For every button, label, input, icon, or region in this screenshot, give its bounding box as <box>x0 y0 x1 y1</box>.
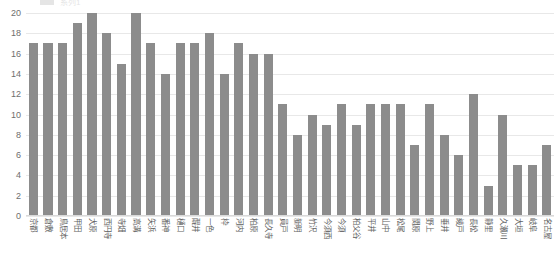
x-axis-tick-label: 久瀬川 <box>499 218 507 239</box>
bar-slot <box>334 13 349 216</box>
x-axis-slot: 久瀬川 <box>496 217 511 274</box>
bar-slot <box>173 13 188 216</box>
y-axis-tick-label: 4 <box>16 171 21 180</box>
x-axis-tick-label: 竹沢 <box>308 218 316 232</box>
y-axis-tick-label: 6 <box>16 151 21 160</box>
y-axis-tick-label: 12 <box>11 90 21 99</box>
bar-slot <box>437 13 452 216</box>
bar <box>220 74 229 216</box>
x-axis-tick-label: 樋口 <box>176 218 184 232</box>
x-axis-slot: 西円寺 <box>99 217 114 274</box>
bar-slot <box>41 13 56 216</box>
bar <box>322 125 331 216</box>
bar-slot <box>246 13 261 216</box>
x-axis-tick-label: 平井 <box>367 218 375 232</box>
x-axis-slot: 垂井 <box>437 217 452 274</box>
bar-slot <box>70 13 85 216</box>
x-axis-slot: 松尾 <box>393 217 408 274</box>
x-axis-tick-label: 醍井 <box>191 218 199 232</box>
x-axis-slot: 倉敷 <box>41 217 56 274</box>
bar-slot <box>275 13 290 216</box>
bar <box>381 104 390 216</box>
y-axis-tick-label: 18 <box>11 29 21 38</box>
x-axis-slot: 甲田 <box>70 217 85 274</box>
x-axis-baseline <box>26 215 554 216</box>
x-axis-slot: 長松 <box>466 217 481 274</box>
bar-slot <box>451 13 466 216</box>
legend-label: 系列1 <box>60 0 80 7</box>
x-axis-tick-label: 西円寺 <box>103 218 111 239</box>
bar <box>278 104 287 216</box>
x-axis-slot: 柏父谷 <box>349 217 364 274</box>
y-axis-tick-label: 0 <box>16 212 21 221</box>
chart-legend: 系列1 <box>0 0 557 9</box>
x-axis-tick-label: 柏原 <box>249 218 257 232</box>
x-axis-tick-label: 京都 <box>29 218 37 232</box>
bar <box>513 165 522 216</box>
bar <box>542 145 551 216</box>
x-axis-slot: 員戸 <box>275 217 290 274</box>
x-axis-slot: 長久寺 <box>261 217 276 274</box>
x-axis-slot: 枠 <box>217 217 232 274</box>
x-axis-tick-label: 綾戸 <box>455 218 463 232</box>
bar-slot <box>510 13 525 216</box>
bar <box>264 54 273 216</box>
bar <box>161 74 170 216</box>
bar <box>308 115 317 217</box>
bar-slot <box>129 13 144 216</box>
bar <box>454 155 463 216</box>
x-axis-tick-label: 寺畑 <box>117 218 125 232</box>
bar-slot <box>305 13 320 216</box>
bar <box>43 43 52 216</box>
bar <box>352 125 361 216</box>
bar <box>249 54 258 216</box>
x-axis-tick-label: 大垣 <box>514 218 522 232</box>
x-axis-slot: 今須 <box>334 217 349 274</box>
bar-slot <box>158 13 173 216</box>
bar-slot <box>202 13 217 216</box>
x-axis-tick-label: 山中 <box>382 218 390 232</box>
x-axis-tick-label: 今須西 <box>323 218 331 239</box>
bar <box>396 104 405 216</box>
bar <box>73 23 82 216</box>
x-axis-slot: 綾戸 <box>451 217 466 274</box>
y-axis: 02468101214161820 <box>0 13 24 216</box>
bar-slot <box>393 13 408 216</box>
x-axis-tick-label: 員戸 <box>279 218 287 232</box>
x-axis-slot: 番神 <box>158 217 173 274</box>
x-axis-slot: 今須西 <box>319 217 334 274</box>
x-axis-tick-label: 岐阜 <box>528 218 536 232</box>
x-axis-slot: 関原 <box>407 217 422 274</box>
x-axis-slot: 静里 <box>481 217 496 274</box>
bar-slot <box>481 13 496 216</box>
bar <box>293 135 302 216</box>
x-axis-slot: 犬原 <box>85 217 100 274</box>
legend-entry: 系列1 <box>40 0 80 7</box>
x-axis-tick-label: 甲田 <box>73 218 81 232</box>
bar-slot <box>143 13 158 216</box>
bar <box>176 43 185 216</box>
x-axis-slot: 樋口 <box>173 217 188 274</box>
x-axis-tick-label: 垂井 <box>440 218 448 232</box>
x-axis-slot: 寺畑 <box>114 217 129 274</box>
x-axis-slot: 柏原 <box>246 217 261 274</box>
bar-slot <box>85 13 100 216</box>
x-axis-slot: 高溝 <box>129 217 144 274</box>
x-axis-tick-label: 今須 <box>338 218 346 232</box>
x-axis-tick-label: 河内 <box>235 218 243 232</box>
x-axis-slot: 竹沢 <box>305 217 320 274</box>
bar-slot <box>363 13 378 216</box>
bar-slot <box>540 13 555 216</box>
bar-slot <box>290 13 305 216</box>
bar <box>87 13 96 216</box>
x-axis-slot: 一色 <box>202 217 217 274</box>
x-axis-tick-label: 長松 <box>470 218 478 232</box>
bar <box>410 145 419 216</box>
bar <box>498 115 507 217</box>
bar-slot <box>187 13 202 216</box>
bar-slot <box>26 13 41 216</box>
bar-slot <box>55 13 70 216</box>
x-axis-tick-label: 犬原 <box>88 218 96 232</box>
x-axis-tick-label: 一色 <box>205 218 213 232</box>
bar-slot <box>99 13 114 216</box>
